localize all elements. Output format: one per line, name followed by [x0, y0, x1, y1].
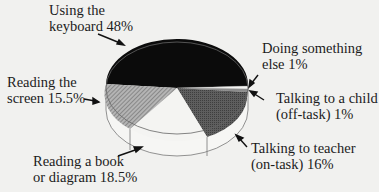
label-screen-line2: screen 15.5% [7, 90, 85, 106]
label-book: Reading a book or diagram 18.5% [33, 153, 137, 185]
label-teacher-line1: Talking to teacher [251, 140, 355, 156]
label-child-line2: (off-task) 1% [276, 106, 378, 122]
label-keyboard: Using the keyboard 48% [49, 2, 133, 34]
label-screen: Reading the screen 15.5% [7, 74, 85, 106]
label-keyboard-line1: Using the [49, 2, 133, 18]
pie-top-face [104, 39, 248, 141]
label-teacher: Talking to teacher (on-task) 16% [251, 140, 355, 172]
label-something-else: Doing something else 1% [262, 40, 362, 72]
label-screen-line1: Reading the [7, 74, 85, 90]
label-teacher-line2: (on-task) 16% [251, 156, 355, 172]
label-keyboard-line2: keyboard 48% [49, 18, 133, 34]
label-something-else-line1: Doing something [262, 40, 362, 56]
label-child-line1: Talking to a child [276, 90, 378, 106]
label-book-line1: Reading a book [33, 153, 137, 169]
label-something-else-line2: else 1% [262, 56, 362, 72]
label-book-line2: or diagram 18.5% [33, 169, 137, 185]
slice-keyboard [106, 39, 248, 88]
label-child: Talking to a child (off-task) 1% [276, 90, 378, 122]
